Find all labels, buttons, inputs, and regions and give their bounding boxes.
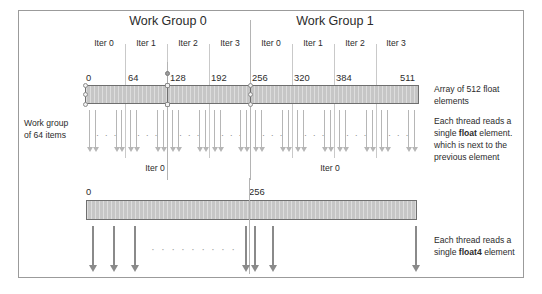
thread-arrow	[324, 110, 325, 148]
float4-arrow	[272, 226, 274, 266]
thread-arrow	[414, 110, 415, 148]
thread-arrow	[288, 110, 289, 148]
float-note-post: element.	[477, 128, 512, 138]
iter-label-5: Iter 1	[303, 38, 323, 48]
thread-arrow	[178, 110, 179, 148]
float4-note-post: element	[482, 247, 515, 257]
select-handle-ml[interactable]	[83, 92, 88, 97]
float4-note-line1: Each thread reads a	[434, 235, 538, 247]
thread-ellipsis: · · ·	[137, 130, 159, 140]
float4-note-line2: single float4 element	[434, 247, 538, 259]
iter-label-7: Iter 3	[386, 38, 406, 48]
thread-arrow	[89, 110, 90, 148]
select-handle-tc[interactable]	[165, 83, 170, 88]
thread-arrow	[408, 110, 409, 148]
array-caption-line2: elements	[434, 96, 534, 108]
float4-note-pre: single	[434, 247, 459, 257]
thread-arrow	[303, 110, 304, 148]
top-index-256: 256	[252, 72, 268, 83]
select-handle-br[interactable]	[248, 102, 253, 107]
float4-arrow	[245, 226, 247, 266]
thread-arrow	[163, 110, 164, 148]
float4-ellipsis: · · ·	[211, 244, 237, 255]
thread-arrow	[255, 110, 256, 148]
work-group-0-title: Work Group 0	[129, 14, 207, 29]
thread-ellipsis: · · ·	[388, 130, 410, 140]
iter-label-0: Iter 0	[94, 38, 114, 48]
float4-arrow	[415, 226, 417, 266]
thread-arrow	[220, 110, 221, 148]
diagram-canvas: Work Group 0 Work Group 1 Iter 0 Iter 1 …	[0, 0, 542, 294]
float4-keyword: float4	[459, 247, 482, 257]
float4-ellipsis: · · ·	[151, 244, 177, 255]
thread-arrow	[345, 110, 346, 148]
float-note-line4: previous element	[434, 152, 538, 164]
rotation-handle[interactable]	[165, 71, 170, 76]
top-index-511: 511	[400, 72, 415, 83]
mid-iter-label-right: Iter 0	[320, 163, 340, 173]
thread-arrow	[240, 110, 241, 148]
thread-arrow	[130, 110, 131, 148]
select-handle-bl[interactable]	[83, 102, 88, 107]
iter-label-3: Iter 3	[220, 38, 240, 48]
thread-ellipsis: · · ·	[179, 130, 201, 140]
float4-arrow	[113, 226, 115, 266]
thread-arrow	[214, 110, 215, 148]
top-index-64: 64	[128, 72, 138, 83]
float-note: Each thread reads a single float element…	[434, 116, 538, 163]
bottom-index-0: 0	[86, 186, 91, 197]
float-note-line2: single float element.	[434, 128, 538, 140]
thread-arrow	[339, 110, 340, 148]
bar-seam-128	[167, 86, 168, 103]
array-caption-line1: Array of 512 float	[434, 84, 534, 96]
float4-arrow	[254, 226, 256, 266]
select-handle-tl[interactable]	[83, 83, 88, 88]
thread-arrow	[381, 110, 382, 148]
thread-arrow	[136, 110, 137, 148]
iter-label-4: Iter 0	[261, 38, 281, 48]
array-caption: Array of 512 float elements	[434, 84, 534, 108]
top-index-128: 128	[170, 72, 186, 83]
thread-arrow	[205, 110, 206, 148]
mid-iter-label-left: Iter 0	[145, 163, 165, 173]
float-keyword: float	[459, 128, 477, 138]
thread-ellipsis: · · ·	[304, 130, 326, 140]
thread-arrow	[282, 110, 283, 148]
float4-memory-bar[interactable]	[86, 200, 417, 220]
thread-arrow	[297, 110, 298, 148]
thread-ellipsis: · · ·	[262, 130, 284, 140]
top-index-192: 192	[211, 72, 227, 83]
thread-arrow	[121, 110, 122, 148]
bottom-group-divider	[249, 178, 250, 274]
thread-arrow	[330, 110, 331, 148]
thread-ellipsis: · · ·	[96, 130, 118, 140]
select-handle-mr[interactable]	[248, 92, 253, 97]
float4-arrow	[134, 226, 136, 266]
work-group-1-title: Work Group 1	[296, 14, 374, 29]
float-note-line3: which is next to the	[434, 140, 538, 152]
thread-arrow	[366, 110, 367, 148]
thread-arrow	[261, 110, 262, 148]
float-note-pre: single	[434, 128, 459, 138]
top-index-0: 0	[86, 72, 91, 83]
iter-label-2: Iter 2	[178, 38, 198, 48]
select-handle-bc[interactable]	[165, 102, 170, 107]
thread-ellipsis: · · ·	[346, 130, 368, 140]
float4-arrow	[92, 226, 94, 266]
thread-arrow	[246, 110, 247, 148]
bar-texture	[87, 201, 416, 219]
bottom-index-256: 256	[249, 186, 265, 197]
thread-arrow	[116, 110, 117, 148]
float4-note: Each thread reads a single float4 elemen…	[434, 235, 538, 259]
thread-arrow	[372, 110, 373, 148]
float4-ellipsis: · · ·	[181, 244, 207, 255]
thread-arrow	[387, 110, 388, 148]
top-index-384: 384	[336, 72, 352, 83]
thread-arrow	[157, 110, 158, 148]
work-group-size-line2: of 64 items	[24, 130, 84, 142]
select-handle-tr[interactable]	[248, 83, 253, 88]
float-note-line1: Each thread reads a	[434, 116, 538, 128]
work-group-size-label: Work group of 64 items	[24, 118, 84, 142]
thread-arrow	[172, 110, 173, 148]
thread-arrow	[95, 110, 96, 148]
